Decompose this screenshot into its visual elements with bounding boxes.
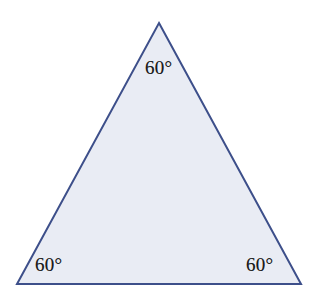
triangle-diagram: 60° 60° 60°: [0, 0, 313, 296]
angle-label-bottom-left: 60°: [35, 255, 62, 274]
angle-label-apex: 60°: [145, 58, 172, 77]
triangle-shape: [0, 0, 313, 296]
angle-label-bottom-right: 60°: [246, 255, 273, 274]
